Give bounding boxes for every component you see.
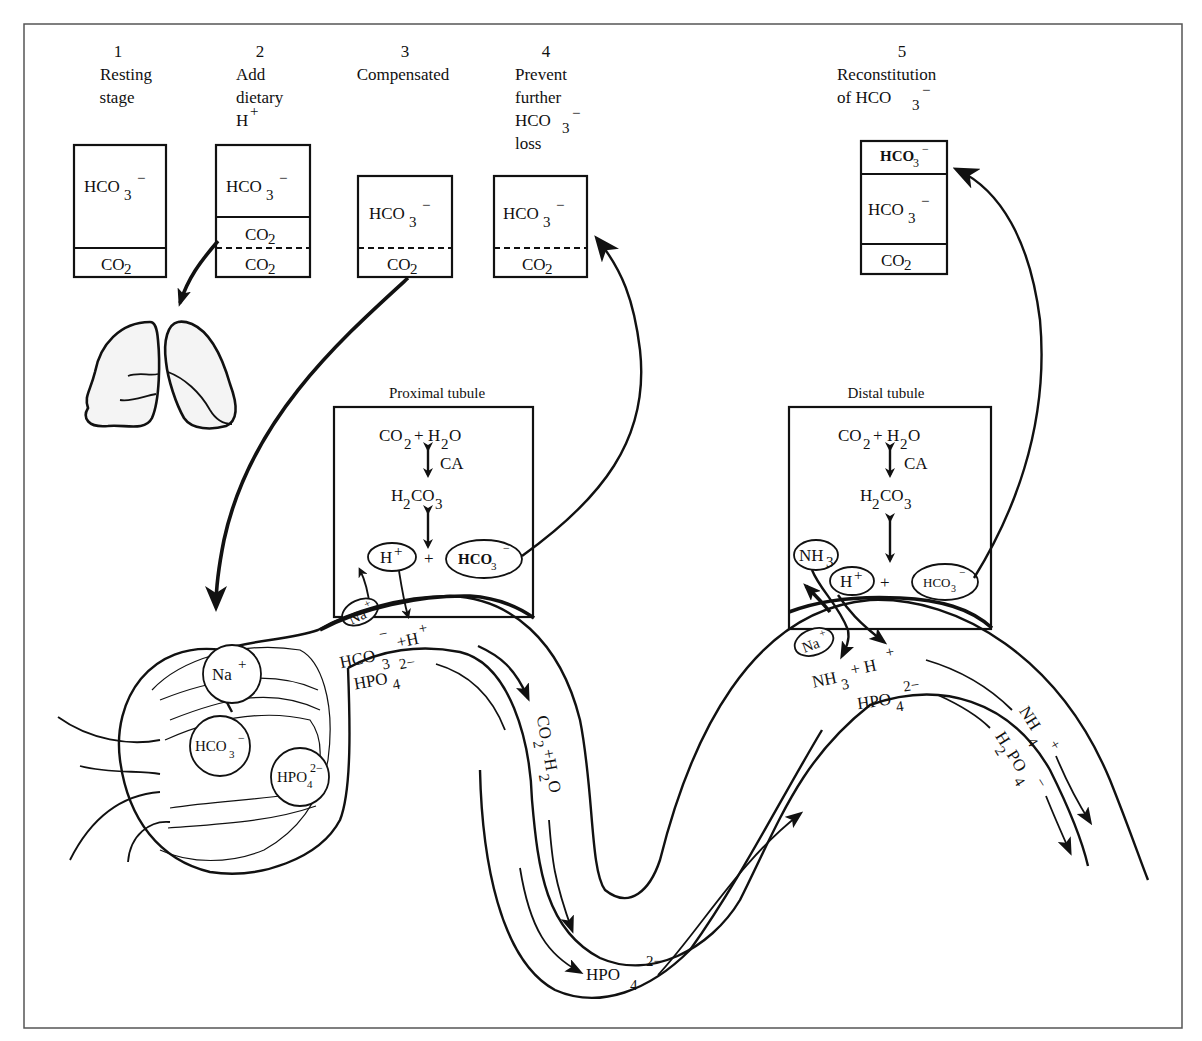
svg-text:2: 2 xyxy=(904,257,912,273)
stage-5-header: 5 Reconstitution of HCO 3 − xyxy=(837,42,937,113)
carbonic-anhydrase-label: CA xyxy=(904,454,928,473)
svg-text:HCO: HCO xyxy=(195,738,227,754)
svg-text:3: 3 xyxy=(266,187,274,203)
hco3-label: HCO xyxy=(369,204,405,223)
svg-text:3: 3 xyxy=(840,675,851,692)
svg-text:−: − xyxy=(1032,775,1050,791)
stage-4-box: HCO 3 − CO 2 xyxy=(494,176,587,277)
svg-text:2: 2 xyxy=(863,436,871,452)
svg-text:HCO: HCO xyxy=(338,646,377,672)
stage-title: further xyxy=(515,88,562,107)
svg-text:−: − xyxy=(137,170,145,186)
svg-text:+: + xyxy=(238,656,246,672)
stage-title: HCO xyxy=(515,111,551,130)
svg-text:2: 2 xyxy=(410,261,418,277)
svg-text:CO: CO xyxy=(411,486,435,505)
svg-text:3: 3 xyxy=(543,214,551,230)
svg-text:+H: +H xyxy=(539,747,562,772)
lungs-icon xyxy=(86,322,236,429)
stage-number: 4 xyxy=(542,42,551,61)
svg-text:NH: NH xyxy=(799,546,824,565)
distal-tubule-title: Distal tubule xyxy=(847,385,924,401)
stage-title: of HCO xyxy=(837,88,891,107)
svg-text:4: 4 xyxy=(307,778,313,790)
svg-text:+: + xyxy=(873,426,883,445)
stage-title: Resting xyxy=(100,65,152,84)
glomerulus: Na + HCO 3 − HPO 4 2− xyxy=(58,645,350,874)
proximal-tubule-cell: Proximal tubule CO 2 + H 2 O CA H 2 CO 3… xyxy=(334,385,533,631)
svg-text:2: 2 xyxy=(268,231,276,247)
svg-text:−: − xyxy=(922,142,929,156)
distal-lumen-labels: NH 3 + H + HPO 4 2− NH 4 + H 2 PO 4 − xyxy=(808,643,1090,852)
svg-text:3: 3 xyxy=(229,748,235,760)
stage-2-header: 2 Add dietary H + xyxy=(236,42,284,130)
superscript: − xyxy=(922,82,930,98)
svg-text:2−: 2− xyxy=(310,761,323,775)
arrow-co2-to-lungs xyxy=(180,241,218,303)
svg-text:3: 3 xyxy=(908,210,916,226)
svg-text:−: − xyxy=(377,625,389,642)
proximal-lumen-labels: HCO 3 − +H + HPO 4 2− CO 2 +H 2 O xyxy=(334,617,572,930)
svg-text:HPO: HPO xyxy=(352,669,389,694)
svg-text:HPO: HPO xyxy=(277,769,307,785)
svg-text:2: 2 xyxy=(441,436,449,452)
svg-text:+ H: + H xyxy=(849,655,879,679)
svg-text:3: 3 xyxy=(951,583,956,594)
stage-number: 5 xyxy=(898,42,907,61)
hco3-label: HCO xyxy=(503,204,539,223)
svg-text:3: 3 xyxy=(826,554,834,570)
svg-text:O: O xyxy=(908,426,920,445)
svg-text:3: 3 xyxy=(435,496,443,512)
svg-text:H: H xyxy=(391,486,403,505)
svg-text:2: 2 xyxy=(124,261,132,277)
svg-text:2−: 2− xyxy=(398,654,417,673)
stage-title: Add xyxy=(236,65,266,84)
svg-text:3: 3 xyxy=(904,496,912,512)
svg-text:4: 4 xyxy=(391,676,402,693)
stage-title: stage xyxy=(100,88,135,107)
hco3-label: HCO xyxy=(868,200,904,219)
svg-text:NH: NH xyxy=(810,668,838,692)
stage-3-header: 3 Compensated xyxy=(357,42,450,84)
svg-text:2: 2 xyxy=(530,739,547,749)
svg-text:H: H xyxy=(428,426,440,445)
svg-text:O: O xyxy=(544,779,565,794)
co2-label: CO xyxy=(101,255,125,274)
svg-text:4: 4 xyxy=(895,698,905,715)
co2-label: CO xyxy=(881,251,905,270)
svg-text:+: + xyxy=(424,549,434,568)
svg-text:HCO: HCO xyxy=(923,575,950,590)
svg-text:3: 3 xyxy=(913,156,919,170)
svg-text:CO: CO xyxy=(838,426,862,445)
svg-text:−: − xyxy=(238,731,245,745)
svg-text:CO: CO xyxy=(533,714,556,741)
svg-text:+: + xyxy=(1046,737,1064,753)
stage-1-box: HCO 3 − CO 2 xyxy=(74,145,166,277)
acid-base-renal-diagram: 1 Resting stage 2 Add dietary H + 3 Comp… xyxy=(0,0,1202,1041)
svg-text:H: H xyxy=(887,426,899,445)
svg-text:HPO: HPO xyxy=(586,965,620,984)
svg-text:2: 2 xyxy=(545,261,553,277)
svg-text:+: + xyxy=(394,543,402,559)
svg-text:NH: NH xyxy=(1015,703,1044,734)
figure-frame xyxy=(24,24,1182,1028)
svg-text:−: − xyxy=(503,541,510,555)
subscript: 3 xyxy=(562,120,570,136)
stage-number: 3 xyxy=(401,42,410,61)
svg-text:3: 3 xyxy=(124,187,132,203)
stage-title: Prevent xyxy=(515,65,567,84)
svg-text:CO: CO xyxy=(379,426,403,445)
carbonic-anhydrase-label: CA xyxy=(440,454,464,473)
svg-text:+: + xyxy=(854,567,862,583)
svg-text:3: 3 xyxy=(409,214,417,230)
svg-text:2: 2 xyxy=(900,436,908,452)
superscript: − xyxy=(572,105,580,121)
proximal-tubule-title: Proximal tubule xyxy=(389,385,486,401)
hco3-label: HCO xyxy=(84,177,120,196)
svg-text:2: 2 xyxy=(268,261,276,277)
svg-text:−: − xyxy=(959,566,965,578)
subscript: 3 xyxy=(912,97,920,113)
svg-text:−: − xyxy=(921,193,929,209)
svg-text:HCO: HCO xyxy=(458,551,492,567)
svg-text:+: + xyxy=(880,573,890,592)
